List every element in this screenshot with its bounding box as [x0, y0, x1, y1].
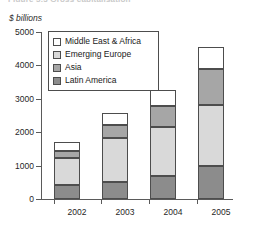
y-tick-label-2000: 2000: [0, 128, 34, 136]
y-tick-4000: [36, 65, 41, 66]
bar-segment-2004-asia: [150, 106, 176, 126]
legend-item-middle-east-africa[interactable]: Middle East & Africa: [53, 35, 154, 48]
y-tick-1000: [36, 166, 41, 167]
y-tick-label-4000: 4000: [0, 61, 34, 69]
legend-label-asia: Asia: [65, 63, 82, 72]
y-tick-2000: [36, 132, 41, 133]
bar-segment-2002-asia: [54, 151, 80, 158]
bar-segment-2003-middle-east-africa: [102, 113, 128, 124]
bar-segment-2005-middle-east-africa: [198, 47, 224, 69]
bar-segment-2004-emerging-europe: [150, 127, 176, 176]
legend-label-emerging-europe: Emerging Europe: [65, 50, 131, 59]
y-tick-3000: [36, 99, 41, 100]
bar-segment-2004-latin-america: [150, 176, 176, 199]
bar-segment-2002-middle-east-africa: [54, 142, 80, 151]
bar-segment-2003-asia: [102, 125, 128, 138]
y-tick-5000: [36, 32, 41, 33]
chart-legend: Middle East & Africa Emerging Europe Asi…: [48, 31, 159, 91]
bar-segment-2004-middle-east-africa: [150, 90, 176, 106]
bar-segment-2005-latin-america: [198, 166, 224, 199]
y-tick-label-1000: 1000: [0, 162, 34, 170]
bar-segment-2002-emerging-europe: [54, 158, 80, 185]
bar-segment-2003-emerging-europe: [102, 138, 128, 182]
y-tick-label-5000: 5000: [0, 28, 34, 36]
legend-item-latin-america[interactable]: Latin America: [53, 74, 154, 87]
legend-label-middle-east-africa: Middle East & Africa: [65, 37, 141, 46]
y-tick-label-3000: 3000: [0, 95, 34, 103]
figure-container: Figure 5.3 Gross capitalisation $ billio…: [0, 0, 273, 228]
bar-segment-2005-asia: [198, 69, 224, 105]
bar-2005: [198, 0, 224, 228]
legend-swatch-latin-america: [53, 77, 61, 85]
y-tick-0: [36, 199, 41, 200]
y-tick-label-0: 0: [0, 195, 34, 203]
legend-swatch-emerging-europe: [53, 51, 61, 59]
bar-segment-2005-emerging-europe: [198, 105, 224, 165]
legend-item-asia[interactable]: Asia: [53, 61, 154, 74]
bar-segment-2002-latin-america: [54, 185, 80, 199]
bar-segment-2003-latin-america: [102, 182, 128, 199]
legend-swatch-middle-east-africa: [53, 38, 61, 46]
legend-label-latin-america: Latin America: [65, 76, 117, 85]
legend-item-emerging-europe[interactable]: Emerging Europe: [53, 48, 154, 61]
y-axis-line: [41, 32, 42, 200]
legend-swatch-asia: [53, 64, 61, 72]
